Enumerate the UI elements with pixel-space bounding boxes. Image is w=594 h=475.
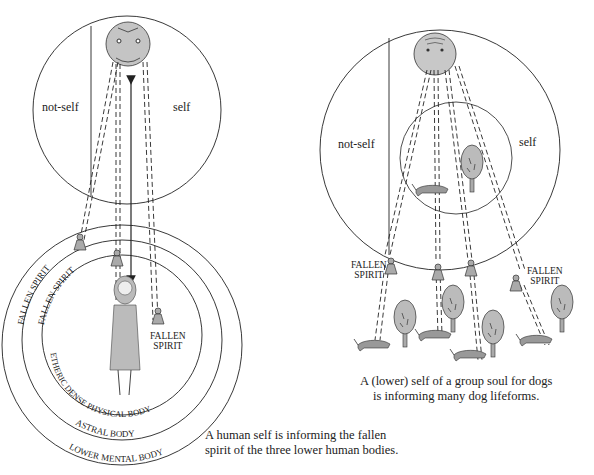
right-caption: A (lower) self of a group soul for dogs … bbox=[360, 374, 552, 404]
ring-label-astral: ASTRAL BODY bbox=[74, 417, 136, 439]
right-fallen-spirit-right-label: FALLEN SPIRIT bbox=[527, 266, 563, 286]
tree-icon bbox=[394, 300, 416, 347]
fallen-spirit-icon bbox=[432, 264, 444, 280]
left-self-label: self bbox=[173, 101, 190, 114]
dog-icon bbox=[516, 334, 552, 346]
fallen-spirit-icon bbox=[74, 234, 86, 250]
left-fallen-spirit-label: FALLEN SPIRIT bbox=[150, 331, 186, 351]
dog-icon bbox=[415, 329, 451, 341]
tree-icon bbox=[461, 145, 483, 192]
dog-icon bbox=[412, 184, 448, 196]
fallen-spirit-icon bbox=[465, 260, 477, 276]
right-fallen-spirit-left-label: FALLEN SPIRIT bbox=[351, 260, 387, 280]
left-caption: A human self is informing the fallen spi… bbox=[205, 428, 398, 458]
ring-label-lower-mental: LOWER MENTAL BODY bbox=[68, 441, 165, 464]
right-group-soul-face-icon bbox=[414, 33, 456, 75]
fallen-spirit-icon bbox=[152, 308, 164, 324]
tree-icon bbox=[551, 285, 573, 332]
human-figure-icon bbox=[110, 276, 140, 395]
right-not-self-label: not-self bbox=[338, 138, 375, 151]
dog-icon bbox=[354, 339, 390, 351]
fallen-spirit-icon bbox=[111, 250, 123, 266]
fallen-spirit-icon bbox=[510, 275, 522, 291]
tree-icon bbox=[442, 285, 464, 332]
right-self-label: self bbox=[519, 136, 536, 149]
tree-icon bbox=[482, 310, 504, 357]
dog-icon bbox=[450, 349, 486, 361]
left-not-self-label: not-self bbox=[42, 101, 79, 114]
left-higher-self-face-icon bbox=[106, 22, 150, 66]
